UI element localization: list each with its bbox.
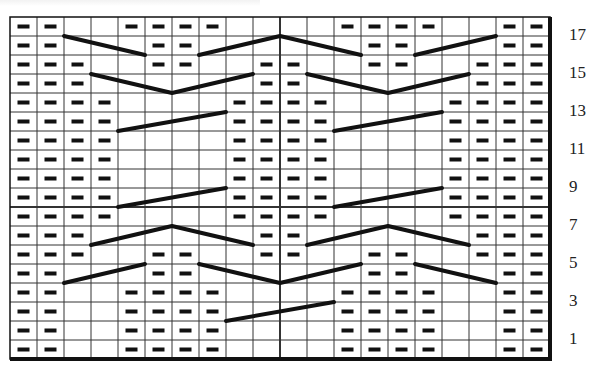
purl-dash-icon bbox=[504, 139, 516, 143]
purl-dash-icon bbox=[45, 63, 57, 67]
purl-dash-icon bbox=[18, 63, 30, 67]
purl-dash-icon bbox=[72, 63, 84, 67]
purl-dash-icon bbox=[45, 291, 57, 295]
purl-dash-icon bbox=[99, 158, 111, 162]
purl-dash-icon bbox=[261, 101, 273, 105]
purl-dash-icon bbox=[45, 158, 57, 162]
purl-dash-icon bbox=[531, 348, 543, 352]
purl-dash-icon bbox=[261, 139, 273, 143]
purl-dash-icon bbox=[531, 215, 543, 219]
purl-dash-icon bbox=[504, 25, 516, 29]
purl-dash-icon bbox=[72, 139, 84, 143]
purl-dash-icon bbox=[207, 310, 219, 314]
purl-dash-icon bbox=[18, 329, 30, 333]
purl-dash-icon bbox=[72, 215, 84, 219]
purl-dash-icon bbox=[504, 63, 516, 67]
purl-dash-icon bbox=[288, 234, 300, 238]
purl-dash-icon bbox=[504, 348, 516, 352]
purl-dash-icon bbox=[99, 196, 111, 200]
purl-dash-icon bbox=[315, 139, 327, 143]
purl-dash-icon bbox=[504, 291, 516, 295]
purl-dash-icon bbox=[18, 44, 30, 48]
purl-dash-icon bbox=[153, 44, 165, 48]
purl-dash-icon bbox=[450, 196, 462, 200]
purl-dash-icon bbox=[153, 310, 165, 314]
purl-dash-icon bbox=[180, 310, 192, 314]
purl-dash-icon bbox=[45, 215, 57, 219]
purl-dash-icon bbox=[72, 177, 84, 181]
purl-dash-icon bbox=[180, 348, 192, 352]
purl-dash-icon bbox=[207, 329, 219, 333]
purl-dash-icon bbox=[72, 82, 84, 86]
row-label-11: 11 bbox=[569, 140, 599, 158]
purl-dash-icon bbox=[504, 101, 516, 105]
purl-dash-icon bbox=[315, 177, 327, 181]
purl-dash-icon bbox=[99, 215, 111, 219]
row-label-1: 1 bbox=[569, 330, 599, 348]
purl-dash-icon bbox=[531, 139, 543, 143]
purl-dash-icon bbox=[531, 63, 543, 67]
purl-dash-icon bbox=[531, 329, 543, 333]
purl-dash-icon bbox=[18, 234, 30, 238]
purl-dash-icon bbox=[18, 177, 30, 181]
purl-dash-icon bbox=[18, 120, 30, 124]
purl-dash-icon bbox=[369, 310, 381, 314]
purl-dash-icon bbox=[450, 120, 462, 124]
purl-dash-icon bbox=[315, 120, 327, 124]
purl-dash-icon bbox=[396, 272, 408, 276]
purl-dash-icon bbox=[45, 139, 57, 143]
purl-dash-icon bbox=[207, 25, 219, 29]
purl-dash-icon bbox=[288, 120, 300, 124]
row-label-17: 17 bbox=[569, 26, 599, 44]
purl-dash-icon bbox=[450, 139, 462, 143]
purl-dash-icon bbox=[477, 139, 489, 143]
purl-dash-icon bbox=[369, 44, 381, 48]
purl-dash-icon bbox=[45, 253, 57, 257]
purl-dash-icon bbox=[45, 44, 57, 48]
purl-dash-icon bbox=[396, 44, 408, 48]
purl-dash-icon bbox=[126, 348, 138, 352]
row-label-7: 7 bbox=[569, 216, 599, 234]
purl-dash-icon bbox=[72, 120, 84, 124]
purl-dash-icon bbox=[153, 25, 165, 29]
purl-dash-icon bbox=[99, 177, 111, 181]
purl-dash-icon bbox=[72, 253, 84, 257]
purl-dash-icon bbox=[234, 139, 246, 143]
purl-dash-icon bbox=[477, 196, 489, 200]
purl-dash-icon bbox=[18, 196, 30, 200]
purl-dash-icon bbox=[234, 120, 246, 124]
purl-dash-icon bbox=[288, 101, 300, 105]
purl-dash-icon bbox=[288, 82, 300, 86]
purl-dash-icon bbox=[369, 272, 381, 276]
purl-dash-icon bbox=[45, 25, 57, 29]
row-label-13: 13 bbox=[569, 102, 599, 120]
purl-dash-icon bbox=[342, 25, 354, 29]
purl-dash-icon bbox=[531, 196, 543, 200]
purl-dash-icon bbox=[315, 215, 327, 219]
purl-dash-icon bbox=[504, 234, 516, 238]
purl-dash-icon bbox=[396, 25, 408, 29]
purl-dash-icon bbox=[396, 348, 408, 352]
purl-dash-icon bbox=[504, 196, 516, 200]
purl-dash-icon bbox=[423, 25, 435, 29]
purl-dash-icon bbox=[531, 82, 543, 86]
purl-dash-icon bbox=[18, 272, 30, 276]
purl-dash-icon bbox=[288, 215, 300, 219]
purl-dash-icon bbox=[261, 215, 273, 219]
purl-dash-icon bbox=[18, 291, 30, 295]
purl-dash-icon bbox=[126, 291, 138, 295]
purl-dash-icon bbox=[315, 158, 327, 162]
purl-dash-icon bbox=[504, 177, 516, 181]
purl-dash-icon bbox=[45, 177, 57, 181]
purl-dash-icon bbox=[477, 177, 489, 181]
purl-dash-icon bbox=[531, 291, 543, 295]
purl-dash-icon bbox=[261, 120, 273, 124]
purl-dash-icon bbox=[504, 253, 516, 257]
purl-dash-icon bbox=[477, 253, 489, 257]
purl-dash-icon bbox=[45, 329, 57, 333]
purl-dash-icon bbox=[153, 348, 165, 352]
row-label-3: 3 bbox=[569, 292, 599, 310]
purl-dash-icon bbox=[342, 291, 354, 295]
purl-dash-icon bbox=[18, 25, 30, 29]
purl-dash-icon bbox=[18, 215, 30, 219]
